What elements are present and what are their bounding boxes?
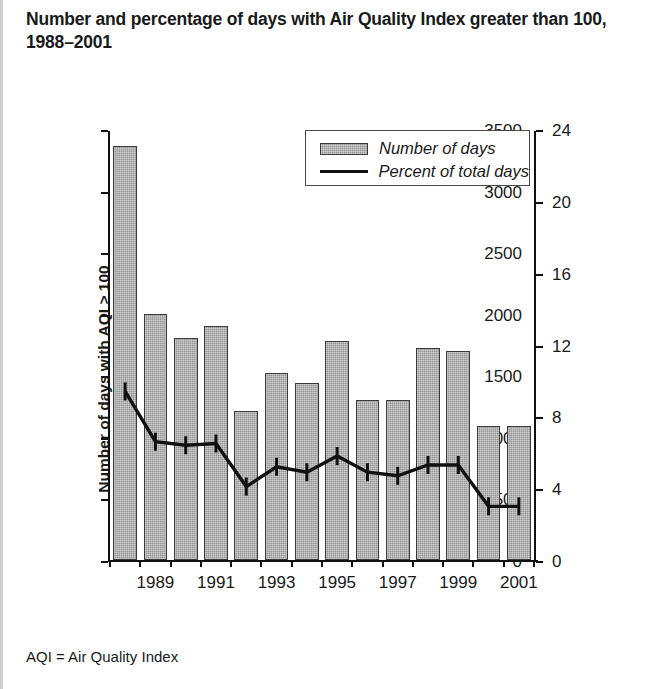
x-tick [442,560,444,567]
y-tick-left [101,315,108,317]
y-tick-left [101,253,108,255]
x-tick-label-1989: 1989 [137,574,175,591]
legend-line-label: Percent of total days [379,162,529,181]
bar-1993 [265,373,289,560]
bar-1992 [234,411,258,560]
x-tick-label-1995: 1995 [318,574,356,591]
x-tick [382,560,384,567]
bar-1990 [174,338,198,560]
x-tick [351,560,353,567]
y-tick-right [536,130,543,132]
y-tick-left [101,130,108,132]
x-tick [503,560,505,567]
bar-1994 [295,383,319,560]
y-tick-label-right: 4 [552,481,592,498]
page-title: Number and percentage of days with Air Q… [26,8,636,54]
y-tick-right [536,202,543,204]
y-tick-label-right: 24 [552,122,592,139]
y-tick-right [536,489,543,491]
bar-1996 [356,400,380,560]
y-tick-right [536,346,543,348]
x-tick [200,560,202,567]
x-tick [291,560,293,567]
x-tick [139,560,141,567]
footnote: AQI = Air Quality Index [26,648,178,665]
x-tick [533,560,535,567]
legend-bar-swatch [320,143,368,155]
plot-area: 1989199119931995199719992001 [110,131,534,560]
legend-line-swatch [320,170,368,173]
chart-legend: Number of days Percent of total days [305,130,530,186]
bar-1999 [446,351,470,560]
x-tick-label-1993: 1993 [258,574,296,591]
x-tick-label-2001: 2001 [500,574,538,591]
y-tick-label-right: 8 [552,409,592,426]
legend-item-percent-of-total-days: Percent of total days [320,160,529,183]
x-tick-label-1999: 1999 [439,574,477,591]
x-tick [260,560,262,567]
y-tick-label-right: 16 [552,266,592,283]
y-tick-right [536,274,543,276]
bar-1995 [325,341,349,560]
chart-page: Number and percentage of days with Air Q… [0,0,662,689]
y-tick-left [101,499,108,501]
y-tick-left [101,376,108,378]
y-tick-left [101,561,108,563]
x-tick [412,560,414,567]
bar-1997 [386,400,410,560]
y-tick-label-right: 12 [552,338,592,355]
bar-1998 [416,348,440,560]
x-tick [170,560,172,567]
y-tick-left [101,438,108,440]
y-tick-right [536,561,543,563]
bar-1991 [204,326,228,560]
x-tick [230,560,232,567]
x-tick-label-1991: 1991 [197,574,235,591]
bar-1989 [144,314,168,560]
y-tick-label-right: 20 [552,194,592,211]
page-edge-rule [0,0,3,689]
x-tick [472,560,474,567]
y-tick-right [536,417,543,419]
x-tick [109,560,111,567]
x-tick [321,560,323,567]
legend-bar-label: Number of days [379,139,495,158]
bar-2001 [507,426,531,560]
chart-figure: Number of days with AQI > 100 Percent of… [108,131,536,562]
y-tick-left [101,192,108,194]
x-tick-label-1997: 1997 [379,574,417,591]
legend-item-number-of-days: Number of days [320,137,529,160]
bar-1988 [113,146,137,560]
bar-2000 [477,426,501,560]
y-tick-label-right: 0 [552,553,592,570]
